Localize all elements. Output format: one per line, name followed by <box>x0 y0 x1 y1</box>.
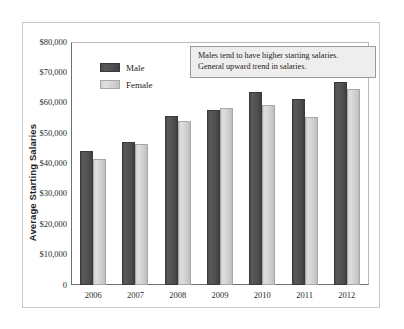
bar-female-2012 <box>347 89 360 285</box>
x-axis-tick: 2006 <box>72 290 114 300</box>
bar-female-2010 <box>262 105 275 285</box>
bar-group <box>326 42 368 285</box>
annotation-line: General upward trend in salaries. <box>198 62 369 73</box>
annotation-callout: Males tend to have higher starting salar… <box>190 46 376 78</box>
bar-female-2008 <box>178 121 191 285</box>
x-axis-tick: 2008 <box>157 290 199 300</box>
x-axis-tick: 2012 <box>326 290 368 300</box>
bar-group <box>283 42 325 285</box>
y-axis-title-text: Average Starting Salaries <box>28 123 39 240</box>
bar-female-2007 <box>135 144 148 285</box>
x-axis-tick: 2010 <box>241 290 283 300</box>
legend-swatch-male <box>100 63 120 72</box>
y-axis-tick: $80,000 <box>21 38 67 47</box>
x-axis-tick: 2007 <box>114 290 156 300</box>
bar-male-2010 <box>249 92 262 285</box>
bar-group <box>241 42 283 285</box>
bar-female-2011 <box>305 117 318 285</box>
bar-male-2012 <box>334 82 347 286</box>
legend-item-female: Female <box>100 79 180 90</box>
bar-male-2006 <box>80 151 93 285</box>
x-axis-tick: 2011 <box>283 290 325 300</box>
bar-male-2009 <box>207 110 220 285</box>
bar-female-2009 <box>220 108 233 285</box>
bar-male-2008 <box>165 116 178 285</box>
legend-item-male: Male <box>100 62 180 73</box>
bar-group <box>199 42 241 285</box>
bar-male-2007 <box>122 142 135 285</box>
bar-female-2006 <box>93 159 106 285</box>
chart-figure: $80,000$70,000$60,000$50,000$40,000$30,0… <box>0 0 404 329</box>
chart-legend: MaleFemale <box>100 62 180 96</box>
x-axis-tick: 2009 <box>199 290 241 300</box>
legend-label: Female <box>126 80 153 90</box>
y-axis-tick: 0 <box>21 281 67 290</box>
bar-male-2011 <box>292 99 305 285</box>
legend-swatch-female <box>100 80 120 89</box>
y-axis-tick: $70,000 <box>21 68 67 77</box>
annotation-line: Males tend to have higher starting salar… <box>198 51 369 62</box>
y-axis-title: Average Starting Salaries <box>24 92 42 272</box>
x-axis-tick-labels: 2006200720082009201020112012 <box>72 290 368 306</box>
legend-label: Male <box>126 63 145 73</box>
